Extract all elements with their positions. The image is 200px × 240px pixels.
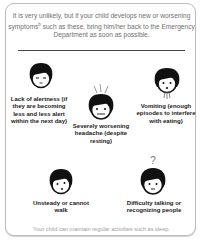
divider	[18, 50, 185, 51]
dizzy-face-icon	[46, 167, 76, 197]
confused-face-icon: ?	[137, 155, 169, 199]
intro-text-part2: such as these, bring him/her back to the…	[41, 23, 195, 39]
headache-face-icon	[84, 84, 118, 122]
symptom-label-lack-of-alertness: Lack of alertness (if they are becoming …	[9, 96, 69, 126]
symptom-label-difficulty-talking: Difficulty talking or recognizing people	[116, 200, 192, 215]
symptoms-card: It is very unlikely, but if your child d…	[5, 3, 196, 236]
symptom-label-unsteady: Unsteady or cannot walk	[31, 200, 91, 215]
drowsy-face-icon	[26, 61, 56, 91]
intro-text: It is very unlikely, but if your child d…	[6, 12, 197, 40]
vomiting-face-icon	[151, 66, 183, 100]
footer-note: Your child can maintain regular activiti…	[6, 226, 197, 232]
symptom-label-vomiting: Vomiting (enough episodes to interfere w…	[136, 103, 196, 125]
svg-text:?: ?	[150, 155, 156, 166]
symptom-label-severe-headache: Severely worsening headache (despite res…	[71, 123, 131, 145]
